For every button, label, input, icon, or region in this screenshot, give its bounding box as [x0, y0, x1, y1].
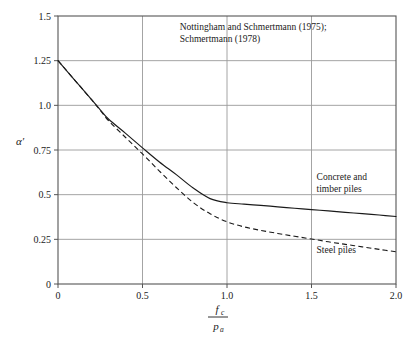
series-label-concrete-line2: timber piles	[317, 184, 362, 194]
x-axis-label-denominator-subscript: a	[220, 325, 224, 334]
y-tick-label: 1.0	[39, 100, 52, 111]
y-tick-label: 0.25	[34, 234, 52, 245]
series-label-steel-piles: Steel piles	[317, 245, 357, 255]
y-tick-label: 0.5	[39, 189, 52, 200]
figure-container: 00.250.50.751.01.251.5 00.51.01.52.0 Not…	[0, 0, 416, 345]
x-axis-label-denominator: p	[212, 320, 219, 332]
series-label-concrete-line1: Concrete and	[317, 172, 368, 182]
source-citation-line1: Nottingham and Schmertmann (1975);	[180, 22, 327, 33]
y-tick-label: 1.5	[39, 11, 52, 22]
x-tick-label: 0	[56, 290, 61, 301]
x-tick-label: 1.0	[221, 290, 234, 301]
chart-plot: 00.250.50.751.01.251.5 00.51.01.52.0 Not…	[0, 0, 416, 345]
y-tick-label: 1.25	[34, 55, 52, 66]
source-citation-line2: Schmertmann (1978)	[180, 34, 260, 45]
y-axis-label: α′	[16, 135, 25, 147]
x-tick-label: 0.5	[136, 290, 149, 301]
y-tick-label: 0.75	[34, 145, 52, 156]
x-tick-label: 2.0	[390, 290, 403, 301]
x-tick-label: 1.5	[305, 290, 318, 301]
y-tick-label: 0	[46, 279, 51, 290]
